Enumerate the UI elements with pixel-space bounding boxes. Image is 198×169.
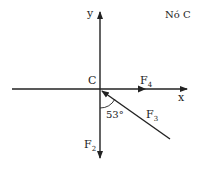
angle-arc [100,99,115,108]
title-label: Nó C [165,9,191,20]
node-label: C [88,74,96,87]
force-diagram: y x Nó C C F4 F3 F2 53° [0,0,198,169]
f2-label: F2 [84,138,96,153]
angle-label: 53° [106,109,124,120]
f4-label: F4 [140,74,153,89]
y-axis-label: y [86,7,94,20]
x-axis-label: x [178,91,185,104]
f3-label: F3 [146,108,158,123]
